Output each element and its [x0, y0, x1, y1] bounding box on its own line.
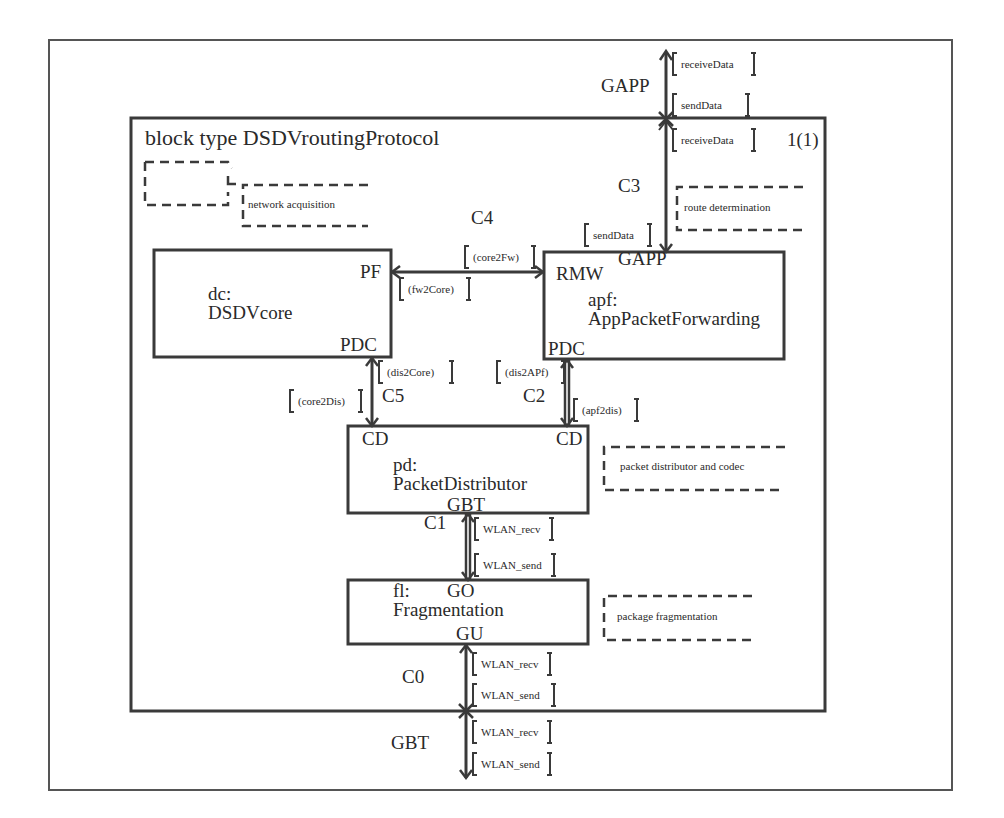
- signal-list-apf2dis: (apf2dis): [573, 400, 638, 420]
- page-frame: [49, 40, 952, 790]
- page-number: 1(1): [787, 130, 819, 149]
- gate-gbt-label: GBT: [447, 495, 485, 514]
- signal-list-c1-recv: WLAN_recv: [474, 519, 553, 539]
- signal-list-c3-receive: receiveData: [672, 130, 755, 150]
- signal-list-gapp-send: sendData: [672, 95, 749, 115]
- signal-list-gbt-recv: WLAN_recv: [472, 722, 551, 742]
- signal-list-c0-send: WLAN_send: [472, 685, 555, 705]
- block-pd-type: PacketDistributor: [393, 474, 527, 493]
- signal-list-dis2core: (dis2Core): [378, 362, 453, 382]
- gate-gu-label: GU: [456, 624, 483, 643]
- comment-packet-distributor: packet distributor and codec: [620, 461, 744, 472]
- gate-rmw-label: RMW: [556, 264, 604, 283]
- signal-list-core2fw: (core2Fw): [464, 247, 535, 267]
- signal-list-fw2core: (fw2Core): [399, 279, 470, 299]
- block-fl-instance: fl:: [393, 581, 410, 600]
- block-apf-type: AppPacketForwarding: [588, 309, 760, 328]
- comment-package-fragmentation: package fragmentation: [617, 611, 717, 622]
- signal-list-c3-send: sendData: [584, 225, 651, 245]
- external-gate-gbt: GBT: [391, 733, 429, 752]
- gate-go-label: GO: [447, 581, 474, 600]
- signal-list-dis2apf: (dis2APf): [496, 362, 565, 382]
- external-gate-gapp: GAPP: [601, 76, 650, 95]
- block-dc-type: DSDVcore: [208, 303, 292, 322]
- signal-list-c0-recv: WLAN_recv: [472, 654, 551, 674]
- block-dc-instance: dc:: [208, 284, 231, 303]
- diagram-title: block type DSDVroutingProtocol: [145, 127, 439, 149]
- block-pd-instance: pd:: [393, 455, 417, 474]
- comment-route-determination: route determination: [684, 202, 770, 213]
- gate-pf-label: PF: [360, 262, 381, 281]
- gate-pdc-label-apf: PDC: [548, 339, 585, 358]
- signal-list-core2dis: (core2Dis): [289, 391, 362, 411]
- text-symbol-fold: [228, 176, 236, 184]
- gate-pdc-label: PDC: [340, 335, 377, 354]
- channel-c1-label: C1: [424, 513, 446, 532]
- signal-list-c1-send: WLAN_send: [474, 555, 555, 575]
- gate-cd-left-label: CD: [362, 429, 388, 448]
- text-symbol: [145, 162, 232, 205]
- channel-c3-label: C3: [618, 176, 640, 195]
- channel-c0-label: C0: [402, 667, 424, 686]
- gate-gapp-label: GAPP: [618, 249, 667, 268]
- signal-list-gbt-send: WLAN_send: [472, 754, 551, 774]
- signal-list-gapp-receive: receiveData: [672, 54, 755, 74]
- arrow-up-icon: [462, 514, 474, 522]
- channel-c5-label: C5: [382, 386, 404, 405]
- block-apf-instance: apf:: [588, 290, 618, 309]
- gate-cd-right-label: CD: [556, 429, 582, 448]
- block-fl-type: Fragmentation: [393, 600, 504, 619]
- channel-c4-label: C4: [471, 208, 493, 227]
- channel-c2-label: C2: [523, 386, 545, 405]
- comment-network-acquisition: network acquisition: [248, 199, 335, 210]
